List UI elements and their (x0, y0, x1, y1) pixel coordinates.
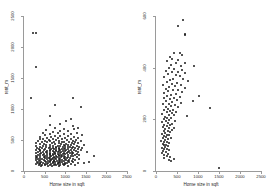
scatter-point (182, 19, 184, 21)
scatter-point (163, 92, 165, 94)
plot-area-left: 0500100015002000250005001000150020002500 (23, 16, 127, 172)
y-tick-mark (153, 119, 156, 120)
scatter-point (59, 123, 61, 125)
scatter-point (72, 125, 74, 127)
y-axis-title-left: rent_m (4, 80, 9, 94)
scatter-point (168, 119, 170, 121)
scatter-point (176, 99, 178, 101)
scatter-point (45, 129, 47, 131)
x-tick-label: 2500 (256, 175, 265, 179)
scatter-point (163, 109, 165, 111)
scatter-point (198, 95, 200, 97)
y-tick-label: 500 (11, 137, 15, 144)
scatter-point (174, 104, 176, 106)
scatter-point (179, 75, 181, 77)
plot-area-right: 020040060005001000150020002500 (155, 16, 261, 172)
scatter-point (173, 114, 175, 116)
y-tick-label: 2000 (11, 42, 15, 51)
scatter-point (47, 165, 49, 167)
y-tick-mark (21, 16, 24, 17)
scatter-point (70, 118, 72, 120)
scatter-point (177, 59, 179, 61)
y-tick-label: 400 (143, 64, 147, 71)
scatter-point (184, 87, 186, 89)
y-tick-label: 2500 (11, 11, 15, 20)
scatter-point (63, 128, 65, 130)
scatter-point (35, 32, 37, 34)
x-tick-label: 1000 (193, 175, 202, 179)
scatter-point (59, 135, 61, 137)
scatter-point (166, 95, 168, 97)
scatter-point (168, 149, 170, 151)
scatter-point (168, 86, 170, 88)
scatter-point (187, 80, 189, 82)
y-tick-label: 1000 (11, 104, 15, 113)
scatter-point (165, 70, 167, 72)
scatter-point (49, 133, 51, 135)
scatter-point (172, 109, 174, 111)
scatter-point (169, 124, 171, 126)
scatter-point (181, 69, 183, 71)
y-tick-mark (153, 68, 156, 69)
scatter-point (174, 85, 176, 87)
y-tick-mark (153, 16, 156, 17)
scatter-panel-left: 0500100015002000250005001000150020002500… (0, 0, 134, 196)
scatter-point (174, 120, 176, 122)
scatter-point (73, 136, 75, 138)
scatter-point (49, 124, 51, 126)
scatter-point (77, 127, 79, 129)
scatter-point (37, 140, 39, 142)
scatter-point (70, 163, 72, 165)
scatter-point (74, 159, 76, 161)
scatter-point (63, 164, 65, 166)
scatter-point (169, 156, 171, 158)
scatter-point (54, 135, 56, 137)
scatter-point (171, 83, 173, 85)
scatter-point (59, 130, 61, 132)
scatter-point (171, 71, 173, 73)
scatter-point (55, 139, 57, 141)
scatter-point (168, 142, 170, 144)
scatter-point (51, 165, 53, 167)
scatter-point (175, 93, 177, 95)
scatter-point (173, 158, 175, 160)
x-tick-label: 2000 (102, 175, 111, 179)
scatter-point (218, 167, 220, 169)
scatter-point (78, 154, 80, 156)
y-tick-label: 0 (11, 170, 15, 172)
x-tick-label: 1500 (81, 175, 90, 179)
scatter-point (166, 155, 168, 157)
scatter-point (171, 123, 173, 125)
scatter-point (57, 132, 59, 134)
scatter-point (81, 134, 83, 136)
scatter-point (67, 165, 69, 167)
scatter-point (88, 161, 90, 163)
scatter-point (177, 89, 179, 91)
scatter-point (67, 130, 69, 132)
scatter-point (173, 127, 175, 129)
x-tick-label: 0 (155, 175, 157, 179)
scatter-point (55, 164, 57, 166)
scatter-point (35, 66, 37, 68)
scatter-point (40, 165, 42, 167)
scatter-point (168, 114, 170, 116)
scatter-point (175, 74, 177, 76)
scatter-point (44, 134, 46, 136)
scatter-point (52, 131, 54, 133)
scatter-point (173, 97, 175, 99)
scatter-point (180, 102, 182, 104)
scatter-point (163, 97, 165, 99)
scatter-point (86, 151, 88, 153)
y-tick-mark (21, 47, 24, 48)
y-tick-label: 200 (143, 116, 147, 123)
scatter-point (180, 84, 182, 86)
scatter-point (80, 140, 82, 142)
scatter-point (182, 78, 184, 80)
scatter-point (35, 142, 37, 144)
scatter-point (186, 115, 188, 117)
scatter-point (167, 138, 169, 140)
scatter-point (80, 106, 82, 108)
scatter-point (176, 82, 178, 84)
scatter-point (72, 97, 74, 99)
scatter-point (166, 111, 168, 113)
